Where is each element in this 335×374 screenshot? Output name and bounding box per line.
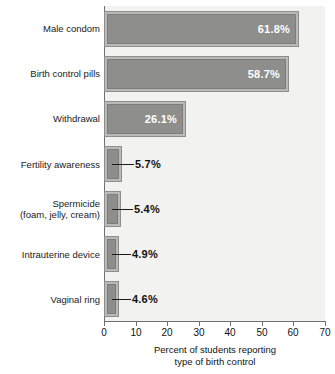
x-axis-tick-label: 10	[130, 327, 141, 338]
bar-value-label: 5.4%	[134, 203, 160, 215]
value-leader-line	[112, 164, 134, 165]
bar-value-label: 5.7%	[135, 158, 161, 170]
bar-value-label: 4.9%	[132, 248, 158, 260]
bar-chart: 61.8%58.7%26.1%5.7%5.4%4.9%4.6% Male con…	[0, 0, 335, 374]
x-axis-tick	[293, 322, 294, 326]
bar-value-label: 4.6%	[132, 293, 158, 305]
category-label: Withdrawal	[4, 113, 100, 124]
x-axis-tick	[136, 322, 137, 326]
x-axis-tick-label: 70	[319, 327, 330, 338]
category-label: Vaginal ring	[4, 294, 100, 305]
category-label: Male condom	[4, 23, 100, 34]
x-axis-tick-label: 40	[224, 327, 235, 338]
bar: 26.1%	[104, 101, 186, 137]
x-axis-tick	[104, 322, 105, 326]
category-label: Spermicide (foam, jelly, cream)	[4, 198, 100, 220]
x-axis-tick-label: 50	[256, 327, 267, 338]
x-axis-tick	[325, 322, 326, 326]
x-axis-tick	[262, 322, 263, 326]
x-axis-tick-label: 30	[193, 327, 204, 338]
x-axis-tick	[167, 322, 168, 326]
category-label: Birth control pills	[4, 68, 100, 79]
x-axis-tick-label: 0	[101, 327, 107, 338]
bar-value-label: 26.1%	[145, 113, 177, 125]
bar: 61.8%	[104, 11, 299, 47]
value-leader-line	[112, 209, 133, 210]
value-leader-line	[112, 299, 131, 300]
bar-fill: 58.7%	[107, 59, 286, 89]
bar-value-label: 61.8%	[258, 23, 290, 35]
x-axis-title: Percent of students reporting type of bi…	[104, 344, 326, 368]
x-axis-tick-label: 60	[287, 327, 298, 338]
bar-fill: 61.8%	[107, 14, 296, 44]
value-leader-line	[112, 254, 131, 255]
x-axis-tick	[199, 322, 200, 326]
x-axis-tick	[230, 322, 231, 326]
bar: 58.7%	[104, 56, 289, 92]
bar-value-label: 58.7%	[248, 68, 280, 80]
category-label: Intrauterine device	[4, 249, 100, 260]
category-label: Fertility awareness	[4, 159, 100, 170]
bar-fill: 26.1%	[107, 104, 183, 134]
x-axis-tick-label: 20	[161, 327, 172, 338]
